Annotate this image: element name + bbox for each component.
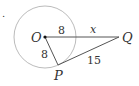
tangent-diagram: . O 8 8 x Q 15 P xyxy=(0,0,139,86)
label-radius-top: 8 xyxy=(58,24,65,37)
label-x: x xyxy=(90,23,97,36)
label-O: O xyxy=(31,30,42,45)
center-point xyxy=(43,35,46,38)
label-Q: Q xyxy=(122,30,133,45)
item-marker: . xyxy=(2,8,5,19)
label-P: P xyxy=(53,68,63,83)
label-radius-OP: 8 xyxy=(41,48,48,61)
label-15: 15 xyxy=(87,54,101,67)
